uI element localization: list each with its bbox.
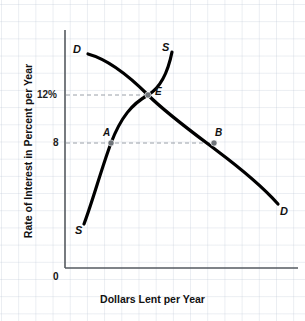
point-label-e: E: [155, 87, 162, 97]
point-marker-b: [211, 140, 217, 146]
point-marker-e: [145, 92, 151, 98]
point-label-b: B: [215, 128, 222, 138]
y-axis-title: Rate of Interest in Percent per Year: [22, 51, 34, 251]
point-label-a: A: [103, 128, 110, 138]
demand-curve-label-top: D: [73, 44, 81, 55]
x-axis-title: Dollars Lent per Year: [0, 293, 305, 305]
y-tick-label-8: 8: [53, 138, 59, 148]
demand-curve-label-bottom: D: [280, 206, 288, 217]
supply-curve-label-bottom: S: [75, 225, 82, 236]
supply-demand-chart: D D S S E A B 12% 8 0 Dollars Lent per Y…: [0, 0, 305, 321]
point-marker-a: [108, 140, 114, 146]
y-tick-label-12-percent: 12%: [37, 90, 57, 100]
plot-area: [0, 0, 305, 321]
supply-curve-label-top: S: [162, 42, 169, 53]
origin-label: 0: [53, 272, 59, 282]
